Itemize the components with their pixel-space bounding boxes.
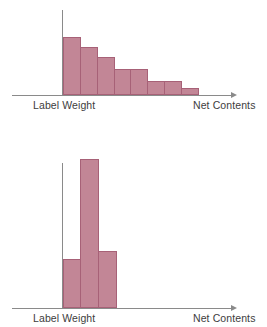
bar-8 (181, 88, 199, 95)
bottom-axis-arrow-icon (231, 305, 237, 311)
bottom-net-contents-text: Net Contents (193, 312, 255, 324)
bar-2 (80, 47, 98, 95)
bar-1 (63, 259, 81, 308)
top-net-contents-text: Net Contents (193, 99, 255, 111)
bottom-plot-area: Label Weight Net Contents (0, 163, 267, 327)
bar-7 (164, 81, 182, 95)
top-axis-arrow-icon (231, 92, 237, 98)
top-horizontal-axis (12, 95, 232, 96)
top-plot-area: Label Weight Net Contents (0, 0, 267, 163)
bar-5 (130, 69, 148, 95)
top-bar-group (63, 20, 198, 95)
bar-2 (80, 159, 99, 308)
bottom-horizontal-axis (12, 308, 232, 309)
bottom-label-weight-text: Label Weight (33, 312, 95, 324)
bar-4 (114, 69, 131, 95)
bottom-histogram-chart: Label Weight Net Contents (0, 163, 267, 327)
bar-3 (97, 57, 115, 95)
bar-3 (98, 251, 117, 308)
bar-6 (147, 81, 165, 95)
bottom-bar-group (63, 153, 123, 308)
bar-1 (63, 37, 81, 95)
top-histogram-chart: Label Weight Net Contents (0, 0, 267, 163)
top-label-weight-text: Label Weight (33, 99, 95, 111)
